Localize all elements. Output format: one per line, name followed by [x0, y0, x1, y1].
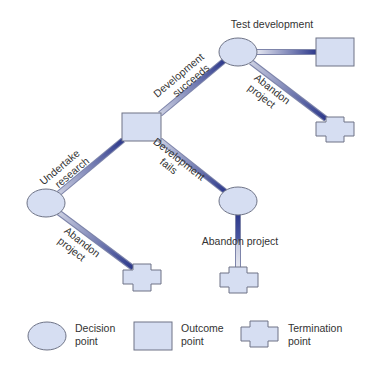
label-abandon-top: Abandon project — [245, 71, 293, 116]
outcome-node-center — [122, 113, 161, 141]
svg-text:point: point — [181, 335, 204, 347]
svg-text:Outcome: Outcome — [181, 322, 224, 334]
label-abandon-middle: Abandon project — [202, 235, 279, 247]
label-abandon-left: Abandon project — [55, 224, 103, 269]
legend-item-decision: Decision point — [28, 322, 115, 350]
outcome-node-top-right — [316, 38, 354, 66]
decision-node-left — [27, 189, 65, 217]
svg-text:point: point — [288, 335, 311, 347]
svg-text:point: point — [75, 335, 98, 347]
legend-item-outcome: Outcome point — [134, 322, 224, 350]
label-test-development: Test development — [231, 18, 313, 30]
decision-tree-diagram: Undertake research Development succeeds … — [0, 0, 376, 372]
decision-node-top — [219, 38, 257, 66]
svg-text:Decision: Decision — [75, 322, 115, 334]
legend-outcome-icon — [134, 322, 172, 350]
svg-text:Development: Development — [151, 135, 207, 183]
label-development-fails: Development fails — [144, 135, 208, 192]
termination-node-middle — [220, 267, 258, 293]
legend-decision-icon — [28, 322, 66, 350]
legend-item-termination: Termination point — [241, 321, 342, 347]
legend-termination-icon — [241, 321, 278, 347]
legend: Decision point Outcome point Termination… — [28, 321, 342, 350]
decision-node-middle — [219, 187, 257, 215]
svg-text:Termination: Termination — [288, 322, 342, 334]
termination-node-top-right — [316, 117, 354, 142]
